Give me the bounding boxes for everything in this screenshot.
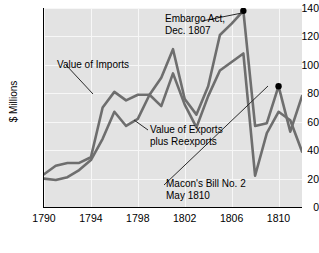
chart-container: 140 120 100 80 60 40 20 0 1790 1794 1798… xyxy=(0,0,319,253)
annotation-macons-bill: Macon's Bill No. 2 May 1810 xyxy=(166,178,246,201)
y-tick-label: 120 xyxy=(279,31,319,41)
annotation-exports-line2: plus Reexports xyxy=(150,136,223,148)
annotation-macon-line2: May 1810 xyxy=(166,190,246,202)
y-tick-label: 100 xyxy=(279,60,319,70)
annotation-exports-label: Value of Exports plus Reexports xyxy=(150,124,223,147)
y-tick-label: 0 xyxy=(279,202,319,212)
y-tick-label: 140 xyxy=(279,3,319,13)
x-tick-label: 1810 xyxy=(257,212,301,224)
x-axis-line xyxy=(43,207,302,208)
y-tick-label: 60 xyxy=(279,117,319,127)
annotation-embargo-line2: Dec. 1807 xyxy=(165,25,225,37)
x-tick-label: 1806 xyxy=(210,212,254,224)
x-tick-label: 1790 xyxy=(22,212,66,224)
y-tick-label: 40 xyxy=(279,145,319,155)
annotation-macon-line1: Macon's Bill No. 2 xyxy=(166,178,246,190)
y-tick-label: 20 xyxy=(279,174,319,184)
leader-line-exports xyxy=(134,120,148,130)
annotation-embargo-act: Embargo Act, Dec. 1807 xyxy=(165,13,225,36)
annotation-imports-text: Value of Imports xyxy=(57,59,129,70)
x-tick-label: 1794 xyxy=(69,212,113,224)
annotation-exports-line1: Value of Exports xyxy=(150,124,223,136)
y-axis-title: $ Millions xyxy=(8,67,19,137)
x-tick-label: 1798 xyxy=(116,212,160,224)
y-tick-label: 80 xyxy=(279,88,319,98)
y-axis-line xyxy=(43,8,44,208)
x-tick-label: 1802 xyxy=(163,212,207,224)
annotation-imports-label: Value of Imports xyxy=(57,59,129,71)
annotation-embargo-line1: Embargo Act, xyxy=(165,13,225,25)
